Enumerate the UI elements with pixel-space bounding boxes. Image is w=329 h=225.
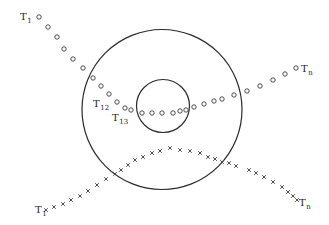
- cross-marker: [213, 157, 217, 161]
- circle-marker: [184, 108, 188, 112]
- cross-marker: [86, 189, 90, 193]
- cross-marker: [206, 155, 210, 159]
- cross-marker: [52, 205, 56, 209]
- cross-marker: [188, 149, 192, 153]
- cross-marker: [104, 177, 108, 181]
- cross-marker: [141, 155, 145, 159]
- circle-marker: [99, 84, 103, 88]
- circle-marker: [258, 84, 262, 88]
- circle-marker: [62, 47, 66, 51]
- cross-marker: [254, 171, 258, 175]
- inner-circle: [137, 80, 190, 133]
- cross-marker: [133, 158, 137, 162]
- cross-marker: [119, 168, 123, 172]
- cross-marker: [280, 185, 284, 189]
- circle-marker: [81, 66, 85, 70]
- circle-marker: [129, 108, 133, 112]
- cross-marker: [178, 148, 182, 152]
- circle-marker: [107, 92, 111, 96]
- circle-marker: [37, 15, 41, 19]
- cross-marker: [150, 151, 154, 155]
- cross-marker: [168, 146, 172, 150]
- cross-marker: [126, 163, 130, 167]
- diagram-canvas: T1T12T13TnT1Tn: [0, 0, 329, 225]
- label-tn-top: Tn: [301, 63, 313, 77]
- cross-marker: [69, 198, 73, 202]
- cross-marker: [227, 161, 231, 165]
- cross-marker: [78, 194, 82, 198]
- label-t13: T13: [112, 112, 128, 126]
- circle-marker: [220, 97, 224, 101]
- circle-marker: [212, 99, 216, 103]
- circle-marker: [192, 105, 196, 109]
- circle-marker: [171, 111, 175, 115]
- circle-marker: [245, 89, 249, 93]
- circle-marker: [71, 57, 75, 61]
- circle-marker: [123, 106, 127, 110]
- trajectory-labels: T1T12T13TnT1Tn: [20, 11, 313, 218]
- circle-marker: [115, 100, 119, 104]
- circle-marker: [283, 72, 287, 76]
- label-t1-top: T1: [20, 11, 32, 25]
- cross-marker: [291, 194, 295, 198]
- label-t12: T12: [93, 98, 109, 112]
- circle-marker: [55, 35, 59, 39]
- circle-marker: [294, 66, 298, 70]
- circle-marker: [178, 109, 182, 113]
- circle-marker: [91, 76, 95, 80]
- trajectory-diagram: T1T12T13TnT1Tn: [0, 0, 329, 225]
- circle-marker: [160, 111, 164, 115]
- label-t1-bottom: T1: [35, 204, 47, 218]
- circle-marker: [202, 102, 206, 106]
- circle-marker: [232, 93, 236, 97]
- circle-marker: [140, 111, 144, 115]
- cross-marker: [158, 149, 162, 153]
- cross-marker-trajectory: [44, 146, 299, 212]
- label-tn-bottom: Tn: [299, 197, 311, 211]
- circle-marker: [46, 25, 50, 29]
- cross-marker: [262, 175, 266, 179]
- cross-marker: [247, 168, 251, 172]
- cross-marker: [271, 180, 275, 184]
- cross-marker: [95, 183, 99, 187]
- cross-marker: [61, 202, 65, 206]
- circle-marker: [271, 78, 275, 82]
- cross-marker: [286, 190, 290, 194]
- circle-marker: [150, 111, 154, 115]
- cross-marker: [198, 151, 202, 155]
- cross-marker: [234, 164, 238, 168]
